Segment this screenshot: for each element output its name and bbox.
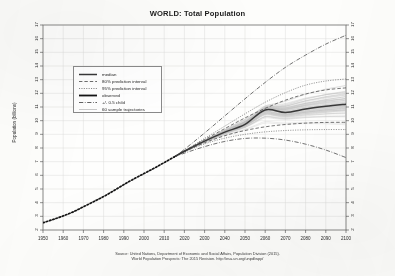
legend-label-half-child: +/- 0.5 child — [102, 100, 125, 105]
plot-background — [43, 25, 346, 230]
legend-label-median: median — [102, 72, 116, 77]
plot-area — [0, 0, 395, 276]
x-axis-ticks — [43, 230, 346, 233]
legend-swatch-80-interval — [78, 78, 98, 85]
legend-swatch-95-interval — [78, 85, 98, 92]
legend-item-median: median — [74, 71, 161, 78]
legend-label-80-interval: 80% prediction interval — [102, 79, 146, 84]
legend-swatch-half-child — [78, 99, 98, 106]
legend-item-trajectories: 60 sample trajectories — [74, 106, 161, 113]
legend-item-95-interval: 95% prediction interval — [74, 85, 161, 92]
legend-label-95-interval: 95% prediction interval — [102, 86, 146, 91]
legend-label-observed: observed — [102, 93, 120, 98]
figure-canvas: WORLD: Total Population Population (bill… — [0, 0, 395, 276]
legend-swatch-observed — [78, 92, 98, 99]
legend-swatch-median — [78, 71, 98, 78]
chart-legend: median 80% prediction interval 95% predi… — [73, 66, 162, 113]
y-axis-ticks-right — [346, 25, 349, 230]
legend-label-trajectories: 60 sample trajectories — [102, 107, 145, 112]
legend-swatch-trajectories — [78, 106, 98, 113]
legend-item-observed: observed — [74, 92, 161, 99]
legend-item-half-child: +/- 0.5 child — [74, 99, 161, 106]
legend-item-80-interval: 80% prediction interval — [74, 78, 161, 85]
y-axis-ticks-left — [40, 25, 43, 230]
